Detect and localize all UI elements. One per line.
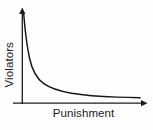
violators-decay-curve	[24, 13, 140, 98]
x-axis-label: Punishment	[0, 108, 153, 120]
x-axis-label-text: Punishment	[53, 107, 115, 119]
chart-figure: Violators Punishment	[0, 0, 153, 130]
y-axis-label-text: Violators	[4, 42, 16, 87]
y-axis-arrowhead	[19, 8, 25, 15]
x-axis-arrowhead	[141, 100, 148, 106]
